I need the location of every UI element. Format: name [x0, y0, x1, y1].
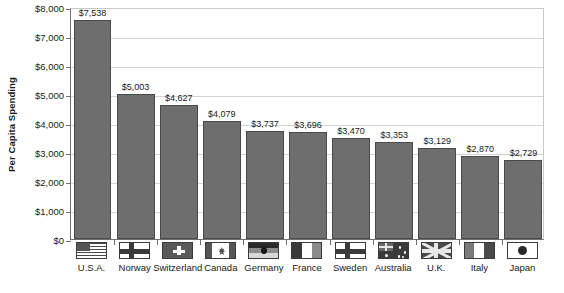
category-label: Norway: [119, 262, 151, 273]
bar-value-label: $3,470: [330, 126, 373, 136]
bar-value-label: $4,627: [157, 93, 200, 103]
bar-group: $3,353: [373, 9, 416, 239]
category-item: Norway: [113, 242, 156, 273]
bar[interactable]: [289, 132, 327, 239]
bar[interactable]: [418, 148, 456, 239]
category-item: U.K.: [415, 242, 458, 273]
category-label: Italy: [471, 262, 488, 273]
bar-group: $3,737: [243, 9, 286, 239]
flag-france-icon: [291, 242, 322, 259]
category-axis: U.S.A.NorwaySwitzerlandCanadaGermanyFran…: [70, 242, 544, 290]
category-label: U.K.: [427, 262, 445, 273]
category-label: Germany: [244, 262, 283, 273]
bar[interactable]: [246, 131, 284, 239]
bar-group: $3,696: [286, 9, 329, 239]
category-label: Switzerland: [153, 262, 202, 273]
y-tick-label: $7,000: [35, 32, 64, 43]
flag-japan-icon: [507, 242, 538, 259]
y-tick-label: $5,000: [35, 90, 64, 101]
category-label: Australia: [375, 262, 412, 273]
flag-usa-icon: [76, 242, 107, 259]
y-tick-label: $1,000: [35, 206, 64, 217]
category-item: U.S.A.: [70, 242, 113, 273]
bar[interactable]: [160, 105, 198, 239]
bar-group: $2,729: [502, 9, 545, 239]
bar-value-label: $3,696: [286, 120, 329, 130]
bar-value-label: $2,870: [459, 144, 502, 154]
bar-group: $5,003: [114, 9, 157, 239]
category-label: Sweden: [333, 262, 367, 273]
flag-sweden-icon: [335, 242, 366, 259]
category-item: Canada: [199, 242, 242, 273]
bar[interactable]: [203, 121, 241, 239]
bar-value-label: $4,079: [200, 109, 243, 119]
category-item: Italy: [458, 242, 501, 273]
flag-italy-icon: [464, 242, 495, 259]
bar-value-label: $7,538: [71, 8, 114, 18]
bar-value-label: $5,003: [114, 82, 157, 92]
bar-value-label: $3,353: [373, 130, 416, 140]
bar[interactable]: [375, 142, 413, 239]
bar-group: $4,627: [157, 9, 200, 239]
y-axis-tick-labels: $0$1,000$2,000$3,000$4,000$5,000$6,000$7…: [20, 8, 68, 240]
y-tick-label: $0: [53, 235, 64, 246]
flag-australia-icon: [378, 242, 409, 259]
plot-area: $7,538$5,003$4,627$4,079$3,737$3,696$3,4…: [70, 8, 544, 240]
y-tick-label: $3,000: [35, 148, 64, 159]
category-item: Australia: [372, 242, 415, 273]
category-item: Switzerland: [156, 242, 199, 273]
flag-switzerland-icon: [162, 242, 193, 259]
bar-value-label: $3,737: [243, 119, 286, 129]
y-tick-label: $6,000: [35, 61, 64, 72]
category-item: Germany: [242, 242, 285, 273]
bar-value-label: $2,729: [502, 148, 545, 158]
bars-layer: $7,538$5,003$4,627$4,079$3,737$3,696$3,4…: [71, 9, 543, 239]
bar-group: $7,538: [71, 9, 114, 239]
bar-chart: Per Capita Spending $0$1,000$2,000$3,000…: [0, 0, 564, 293]
y-tick-label: $2,000: [35, 177, 64, 188]
flag-uk-icon: [421, 242, 452, 259]
bar[interactable]: [117, 94, 155, 239]
bar-value-label: $3,129: [416, 136, 459, 146]
flag-canada-icon: [205, 242, 236, 259]
flag-germany-icon: [248, 242, 279, 259]
bar-group: $2,870: [459, 9, 502, 239]
category-label: Japan: [510, 262, 536, 273]
flag-norway-icon: [119, 242, 150, 259]
category-label: Canada: [204, 262, 237, 273]
bar-group: $3,129: [416, 9, 459, 239]
bar[interactable]: [74, 20, 112, 239]
y-axis-title-text: Per Capita Spending: [6, 77, 17, 172]
y-tick-label: $4,000: [35, 119, 64, 130]
y-tick-label: $8,000: [35, 3, 64, 14]
bar-group: $4,079: [200, 9, 243, 239]
bar-group: $3,470: [330, 9, 373, 239]
category-item: France: [285, 242, 328, 273]
category-label: U.S.A.: [78, 262, 105, 273]
bar[interactable]: [461, 156, 499, 239]
bar[interactable]: [504, 160, 542, 239]
category-item: Sweden: [329, 242, 372, 273]
category-label: France: [292, 262, 322, 273]
category-item: Japan: [501, 242, 544, 273]
y-axis-title: Per Capita Spending: [2, 0, 20, 248]
bar[interactable]: [332, 138, 370, 239]
